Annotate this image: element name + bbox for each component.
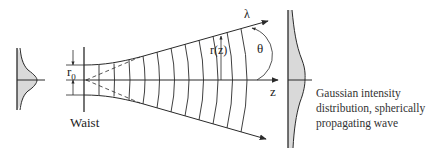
caption: Gaussian intensity distribution, spheric…	[316, 86, 425, 131]
gaussian-beam-diagram: r0 r(z) λ θ z Waist Gaussian intensity d…	[0, 0, 442, 151]
r0-label: r0	[67, 64, 76, 82]
caption-line-2: distribution, spherically	[316, 101, 425, 116]
right-gaussian-profile	[288, 10, 312, 148]
caption-line-3: propagating wave	[316, 116, 425, 131]
lambda-label: λ	[244, 7, 250, 22]
r0-subscript: 0	[71, 72, 76, 82]
rz-label: r(z)	[210, 43, 227, 58]
caption-line-1: Gaussian intensity	[316, 86, 425, 101]
left-gaussian-profile	[17, 48, 45, 110]
theta-label: θ	[257, 41, 263, 57]
z-axis-label: z	[270, 84, 276, 100]
waist-label: Waist	[70, 115, 99, 131]
